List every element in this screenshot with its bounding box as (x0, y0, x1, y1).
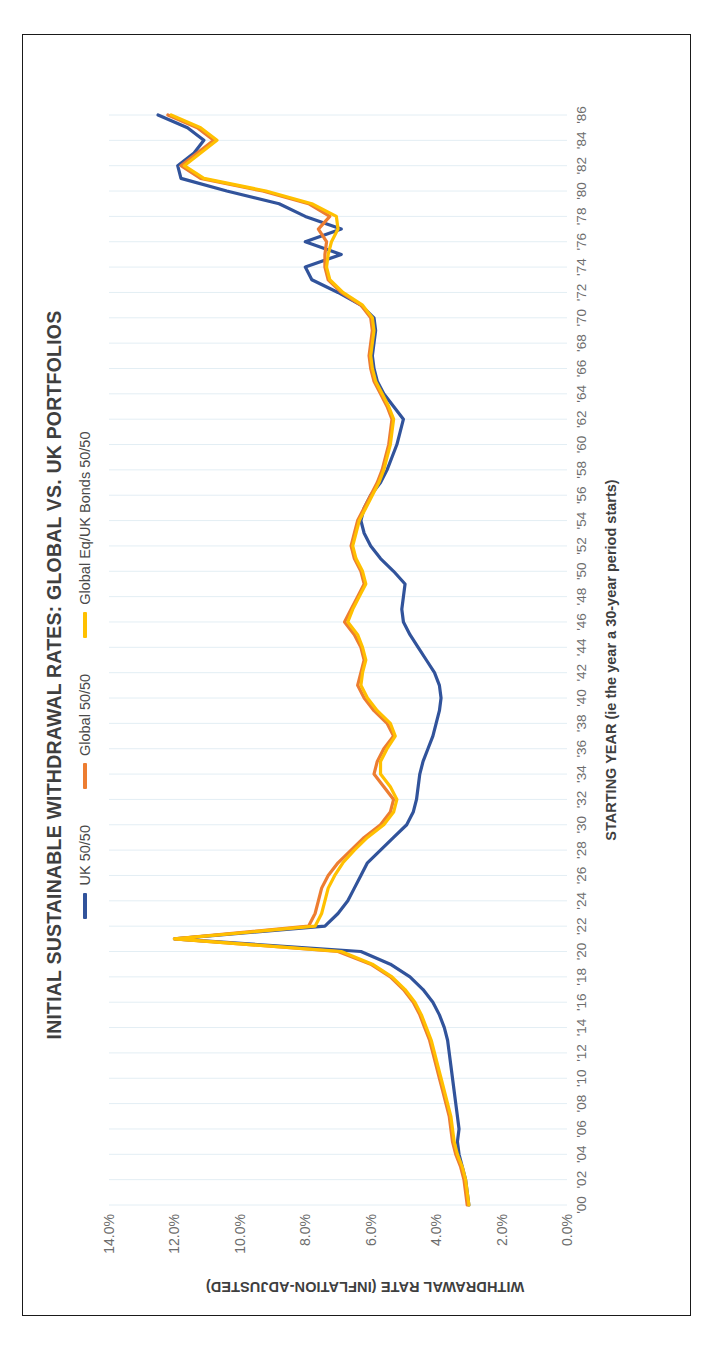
chart-title: INITIAL SUSTAINABLE WITHDRAWAL RATES: GL… (43, 49, 66, 1301)
legend-label-global-eq-uk-bonds: Global Eq/UK Bonds 50/50 (77, 432, 93, 605)
x-axis-tick-label: '14 (567, 1019, 589, 1037)
x-axis-tick-label: '08 (567, 1095, 589, 1113)
x-axis-tick-label: '70 (567, 309, 589, 327)
legend-item-global-5050[interactable]: Global 50/50 (77, 674, 93, 789)
x-axis-tick-label: '40 (567, 689, 589, 707)
x-axis-tick-label: '74 (567, 258, 589, 276)
x-axis-tick-label: '46 (567, 613, 589, 631)
y-axis-tick-label: 12.0% (166, 1205, 182, 1254)
y-axis-tick-label: 8.0% (297, 1205, 313, 1246)
x-axis-tick-label: '78 (567, 208, 589, 226)
x-axis-tick-label: '24 (567, 892, 589, 910)
x-axis-tick-label: '64 (567, 385, 589, 403)
x-axis-tick-label: '48 (567, 588, 589, 606)
x-axis-tick-label: '86 (567, 106, 589, 124)
x-axis-tick-label: '38 (567, 715, 589, 733)
chart-page: INITIAL SUSTAINABLE WITHDRAWAL RATES: GL… (0, 0, 715, 1350)
x-axis-tick-label: '30 (567, 816, 589, 834)
x-axis-tick-label: '34 (567, 765, 589, 783)
rotated-figure-stage: INITIAL SUSTAINABLE WITHDRAWAL RATES: GL… (37, 49, 677, 1301)
legend-item-global-eq-uk-bonds[interactable]: Global Eq/UK Bonds 50/50 (77, 432, 93, 638)
chart-figure: INITIAL SUSTAINABLE WITHDRAWAL RATES: GL… (37, 49, 677, 1301)
x-axis-tick-label: '36 (567, 740, 589, 758)
x-axis-tick-label: '00 (567, 1196, 589, 1214)
x-axis-tick-label: '26 (567, 867, 589, 885)
plot-svg (109, 115, 567, 1205)
x-axis-tick-label: '84 (567, 132, 589, 150)
x-axis-tick-label: '50 (567, 562, 589, 580)
legend-swatch-global-5050 (83, 763, 87, 789)
y-axis-tick-label: 6.0% (362, 1205, 378, 1246)
legend-swatch-uk-5050 (83, 893, 87, 919)
page-frame: INITIAL SUSTAINABLE WITHDRAWAL RATES: GL… (22, 34, 691, 1316)
x-axis-tick-label: '04 (567, 1146, 589, 1164)
x-axis-tick-label: '10 (567, 1069, 589, 1087)
y-axis-tick-label: 10.0% (231, 1205, 247, 1254)
x-axis-tick-label: '60 (567, 436, 589, 454)
legend-swatch-global-eq-uk-bonds (83, 612, 87, 638)
x-axis-tick-label: '54 (567, 512, 589, 530)
legend-label-global-5050: Global 50/50 (77, 674, 93, 756)
x-axis-tick-label: '66 (567, 360, 589, 378)
x-axis-tick-label: '28 (567, 841, 589, 859)
y-axis-tick-label: 2.0% (493, 1205, 509, 1246)
y-axis-tick-label: 14.0% (101, 1205, 117, 1254)
x-axis-tick-label: '44 (567, 639, 589, 657)
series-line-1[interactable] (167, 115, 466, 1205)
x-axis-tick-label: '68 (567, 334, 589, 352)
series-line-0[interactable] (158, 115, 469, 1205)
x-axis-tick-label: '76 (567, 233, 589, 251)
y-axis-tick-label: 4.0% (428, 1205, 444, 1246)
x-axis-tick-label: '80 (567, 182, 589, 200)
x-axis-tick-label: '82 (567, 157, 589, 175)
x-axis-tick-label: '18 (567, 968, 589, 986)
x-axis-tick-label: '20 (567, 943, 589, 961)
x-axis-title: STARTING YEAR (ie the year a 30-year per… (603, 115, 619, 1205)
x-axis-tick-label: '06 (567, 1120, 589, 1138)
x-axis-tick-label: '32 (567, 791, 589, 809)
legend-item-uk-5050[interactable]: UK 50/50 (77, 825, 93, 918)
x-axis-tick-label: '72 (567, 284, 589, 302)
x-axis-tick-label: '12 (567, 1044, 589, 1062)
x-axis-tick-label: '42 (567, 664, 589, 682)
x-axis-tick-label: '16 (567, 993, 589, 1011)
plot-area: 0.0%2.0%4.0%6.0%8.0%10.0%12.0%14.0%'00'0… (109, 115, 567, 1205)
x-axis-tick-label: '56 (567, 486, 589, 504)
x-axis-tick-label: '62 (567, 410, 589, 428)
x-axis-tick-label: '58 (567, 461, 589, 479)
x-axis-tick-label: '52 (567, 537, 589, 555)
x-axis-tick-label: '22 (567, 917, 589, 935)
x-axis-tick-label: '02 (567, 1171, 589, 1189)
legend-label-uk-5050: UK 50/50 (77, 825, 93, 885)
series-line-2[interactable] (171, 115, 469, 1205)
y-axis-title: WITHDRAWAL RATE (INFLATION-ADJUSTED) (135, 1279, 595, 1295)
chart-legend: UK 50/50 Global 50/50 Global Eq/UK Bonds… (77, 49, 93, 1301)
